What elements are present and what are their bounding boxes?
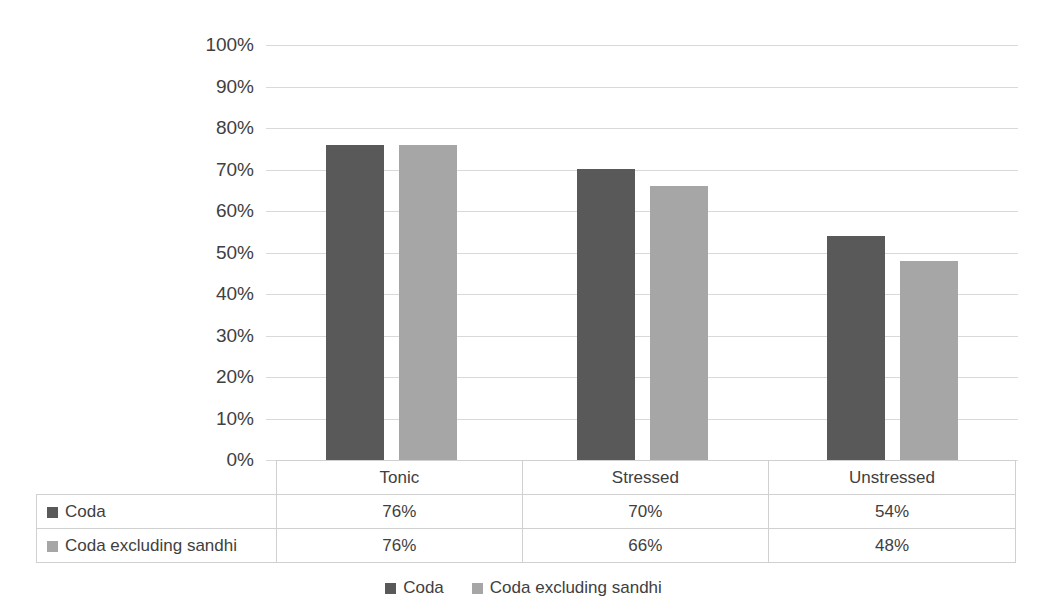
y-axis-tick-label: 80% bbox=[182, 118, 254, 137]
bar bbox=[900, 261, 958, 460]
table-series-label: Coda bbox=[37, 495, 277, 529]
table-column-header: Tonic bbox=[276, 461, 522, 495]
bar bbox=[650, 186, 708, 460]
bar bbox=[399, 145, 457, 460]
y-axis-tick-label: 40% bbox=[182, 284, 254, 303]
table-cell: 76% bbox=[276, 529, 522, 563]
table-header-corner bbox=[37, 461, 277, 495]
chart-legend: CodaCoda excluding sandhi bbox=[0, 578, 1047, 598]
table-column-header: Unstressed bbox=[769, 461, 1016, 495]
y-axis-labels: 100%90%80%70%60%50%40%30%20%10%0% bbox=[178, 45, 254, 460]
y-axis-tick-label: 100% bbox=[182, 35, 254, 54]
series-color-swatch-icon bbox=[47, 507, 58, 518]
table-row: Coda excluding sandhi76%66%48% bbox=[37, 529, 1016, 563]
y-axis-tick-label: 70% bbox=[182, 160, 254, 179]
table-cell: 54% bbox=[769, 495, 1016, 529]
table-cell: 48% bbox=[769, 529, 1016, 563]
table-series-label: Coda excluding sandhi bbox=[37, 529, 277, 563]
y-axis-tick-label: 50% bbox=[182, 243, 254, 262]
table-cell: 76% bbox=[276, 495, 522, 529]
gridline bbox=[266, 128, 1018, 129]
table-series-label-text: Coda bbox=[65, 502, 106, 521]
gridline bbox=[266, 87, 1018, 88]
legend-entry[interactable]: Coda excluding sandhi bbox=[472, 578, 662, 598]
y-axis-tick-label: 20% bbox=[182, 367, 254, 386]
gridline bbox=[266, 45, 1018, 46]
legend-label: Coda bbox=[403, 578, 444, 597]
bar-chart: 100%90%80%70%60%50%40%30%20%10%0% TonicS… bbox=[0, 0, 1047, 610]
y-axis-tick-label: 60% bbox=[182, 201, 254, 220]
table-series-label-text: Coda excluding sandhi bbox=[65, 536, 237, 555]
bar bbox=[326, 145, 384, 460]
data-table: TonicStressedUnstressedCoda76%70%54%Coda… bbox=[36, 460, 1016, 563]
table-column-header: Stressed bbox=[522, 461, 768, 495]
legend-color-swatch-icon bbox=[472, 583, 483, 594]
legend-color-swatch-icon bbox=[385, 583, 396, 594]
data-table-body: TonicStressedUnstressedCoda76%70%54%Coda… bbox=[37, 461, 1016, 563]
table-cell: 70% bbox=[522, 495, 768, 529]
y-axis-tick-label: 90% bbox=[182, 77, 254, 96]
table-header-row: TonicStressedUnstressed bbox=[37, 461, 1016, 495]
bar bbox=[577, 169, 635, 460]
table-row: Coda76%70%54% bbox=[37, 495, 1016, 529]
legend-label: Coda excluding sandhi bbox=[490, 578, 662, 597]
plot-area bbox=[266, 45, 1018, 460]
y-axis-tick-label: 10% bbox=[182, 409, 254, 428]
y-axis-tick-label: 30% bbox=[182, 326, 254, 345]
table-cell: 66% bbox=[522, 529, 768, 563]
legend-entry[interactable]: Coda bbox=[385, 578, 444, 598]
bar bbox=[827, 236, 885, 460]
series-color-swatch-icon bbox=[47, 541, 58, 552]
